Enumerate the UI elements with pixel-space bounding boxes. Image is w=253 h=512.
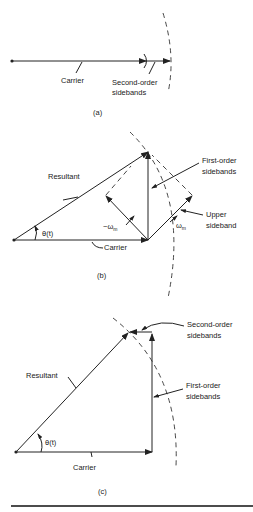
resultant-label: Resultant (26, 371, 59, 380)
upper-sideband-label-2: sideband (206, 221, 236, 230)
locus-arc (113, 318, 176, 466)
first-order-label-1: First-order (202, 156, 237, 165)
first-order-leader (154, 389, 183, 397)
phasor-diagram: Carrier Second-order sidebands (a) Resul… (0, 0, 253, 512)
theta-arc (38, 434, 42, 452)
locus-arc (130, 132, 174, 298)
first-order-label-1: First-order (186, 381, 221, 390)
second-order-label-1: Second-order (112, 78, 158, 87)
locus-arc (163, 13, 171, 93)
carrier-label: Carrier (61, 76, 84, 85)
panel-c: Resultant θ(t) Carrier Second-order side… (14, 318, 233, 496)
carrier-label: Carrier (73, 463, 96, 472)
first-order-leader (152, 163, 199, 188)
upper-sideband-vector (148, 196, 192, 240)
first-order-label-2: sidebands (186, 392, 220, 401)
resultant-label: Resultant (48, 172, 81, 181)
first-order-label-2: sidebands (202, 167, 236, 176)
second-order-leader (142, 323, 184, 330)
second-order-leader (149, 62, 155, 74)
panel-a: Carrier Second-order sidebands (a) (10, 13, 171, 117)
resultant-vector (16, 333, 128, 452)
panel-b: Resultant θ(t) Carrier −ωm ωm First-orde… (12, 132, 237, 298)
carrier-leader (92, 242, 103, 248)
carrier-label: Carrier (104, 243, 127, 252)
upper-sideband-label-1: Upper (206, 210, 227, 219)
parallelogram-dash-left (106, 166, 131, 195)
caption-b: (b) (97, 271, 107, 280)
carrier-leader (91, 452, 92, 457)
caption-c: (c) (98, 487, 107, 496)
carrier-leader (76, 62, 82, 73)
caption-a: (a) (93, 108, 103, 117)
second-order-label-1: Second-order (187, 320, 233, 329)
second-order-label-2: sidebands (187, 331, 221, 340)
lower-sideband-vector (106, 196, 148, 240)
theta-arc (35, 226, 37, 240)
parallelogram-dash-right (152, 155, 192, 195)
theta-label: θ(t) (42, 229, 54, 238)
theta-label: θ(t) (45, 438, 57, 447)
omega-label: ωm (176, 221, 186, 231)
resultant-vector (14, 152, 148, 240)
second-order-label-2: sidebands (112, 88, 146, 97)
resultant-leader (68, 377, 76, 388)
upper-sideband-leader (181, 210, 203, 215)
minus-omega-label: −ωm (103, 222, 117, 232)
